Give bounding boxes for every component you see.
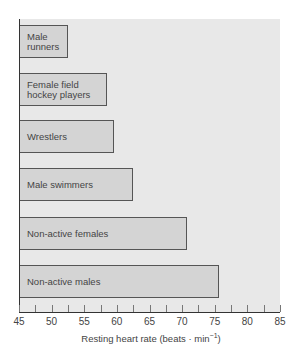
x-tick-label: 65 xyxy=(144,316,155,327)
x-tick xyxy=(215,305,216,312)
x-tick xyxy=(19,305,20,312)
x-tick xyxy=(166,305,167,312)
heart-rate-bar-chart: Male runnersFemale field hockey playersW… xyxy=(0,0,294,364)
bar-label: Female field hockey players xyxy=(27,79,90,100)
bar-label: Wrestlers xyxy=(27,131,67,142)
bar: Non-active males xyxy=(19,265,219,298)
bar-label: Non-active females xyxy=(27,228,108,239)
x-tick xyxy=(182,305,183,312)
bar: Non-active females xyxy=(19,217,187,250)
x-axis-title-text: Resting heart rate (beats · min xyxy=(81,333,209,344)
x-tick-label: 85 xyxy=(274,316,285,327)
x-tick xyxy=(231,305,232,312)
bar: Wrestlers xyxy=(19,120,114,153)
x-tick-label: 45 xyxy=(13,316,24,327)
x-tick xyxy=(117,305,118,312)
x-tick-label: 70 xyxy=(177,316,188,327)
x-tick xyxy=(52,305,53,312)
y-axis-line xyxy=(19,19,20,312)
x-tick-label: 80 xyxy=(242,316,253,327)
bar: Female field hockey players xyxy=(19,73,107,106)
x-tick xyxy=(198,305,199,312)
bar-label: Male swimmers xyxy=(27,179,93,190)
x-tick xyxy=(84,305,85,312)
x-axis-title: Resting heart rate (beats · min−1) xyxy=(0,332,294,344)
x-tick xyxy=(35,305,36,312)
x-tick xyxy=(264,305,265,312)
x-tick-label: 50 xyxy=(46,316,57,327)
x-tick xyxy=(68,305,69,312)
bar-label: Non-active males xyxy=(27,276,100,287)
x-tick-label: 60 xyxy=(111,316,122,327)
x-tick xyxy=(101,305,102,312)
x-tick xyxy=(150,305,151,312)
x-axis-title-superscript: −1 xyxy=(210,332,218,339)
bar-label: Male runners xyxy=(27,31,59,52)
x-axis-title-end: ) xyxy=(218,333,221,344)
x-tick xyxy=(280,305,281,312)
x-tick-label: 75 xyxy=(209,316,220,327)
x-tick xyxy=(247,305,248,312)
x-tick-label: 55 xyxy=(79,316,90,327)
bar: Male swimmers xyxy=(19,168,133,201)
x-axis-line xyxy=(19,312,280,313)
bar: Male runners xyxy=(19,25,68,58)
x-tick xyxy=(133,305,134,312)
